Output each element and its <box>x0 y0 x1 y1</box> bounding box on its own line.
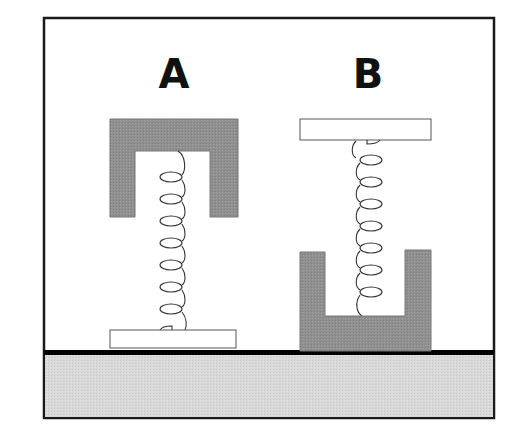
light-plate-b <box>300 119 431 140</box>
label-a: A <box>159 51 190 97</box>
spring-block-diagram: A B <box>0 0 518 442</box>
label-b: B <box>353 51 384 97</box>
ground <box>45 354 493 417</box>
light-plate-a <box>110 330 236 348</box>
